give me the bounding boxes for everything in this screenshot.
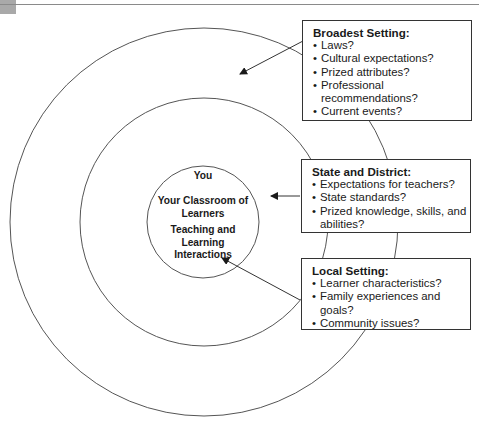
label-teaching-line2: Learning [150, 237, 256, 250]
list-item: Expectations for teachers? [312, 178, 464, 191]
list-item: Laws? [313, 39, 465, 52]
box-title: Local Setting: [312, 264, 464, 277]
box-title: State and District: [312, 165, 464, 178]
list-item: Professional recommendations? [313, 79, 431, 105]
box-state-district: State and District: Expectations for tea… [301, 159, 471, 233]
list-item: Prized knowledge, skills, and abilities? [312, 205, 470, 231]
list-item: Learner characteristics? [312, 277, 464, 290]
middle-circle-state [80, 98, 328, 346]
label-classroom: Your Classroom of Learners [150, 195, 256, 220]
list-item: Current events? [313, 105, 465, 118]
label-classroom-line1: Your Classroom of [150, 195, 256, 208]
arrow-broadest [240, 41, 303, 74]
label-teaching-line1: Teaching and [150, 224, 256, 237]
box-title: Broadest Setting: [313, 26, 465, 39]
label-teaching-line3: Interactions [150, 249, 256, 262]
list-item: Family experiences and goals? [312, 290, 445, 316]
list-item: Prized attributes? [313, 66, 465, 79]
box-local-setting: Local Setting: Learner characteristics? … [301, 258, 471, 330]
list-item: State standards? [312, 191, 464, 204]
arrow-local [222, 258, 300, 300]
list-item: Cultural expectations? [313, 52, 465, 65]
box-broadest-setting: Broadest Setting: Laws? Cultural expecta… [302, 20, 472, 121]
label-you: You [150, 170, 256, 183]
label-classroom-line2: Learners [150, 208, 256, 221]
label-teaching: Teaching and Learning Interactions [150, 224, 256, 262]
list-item: Community issues? [312, 317, 464, 330]
